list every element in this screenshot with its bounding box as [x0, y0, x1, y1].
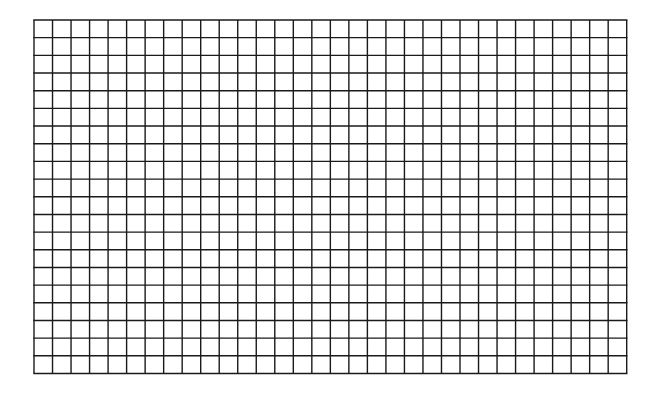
grid-lines — [33, 20, 627, 374]
grid-canvas — [0, 0, 660, 396]
